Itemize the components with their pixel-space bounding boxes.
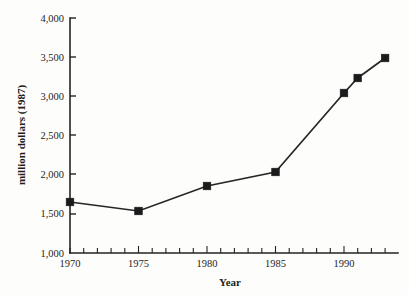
x-tick-label-1985: 1985 <box>265 258 286 269</box>
x-tick-label-1980: 1980 <box>197 258 218 269</box>
y-tick-label-2500: 2,500 <box>40 130 64 141</box>
data-point-markers <box>66 54 389 215</box>
y-axis-ticks <box>70 18 76 214</box>
y-tick-label-3000: 3,000 <box>40 91 64 102</box>
chart-figure: million dollars (1987) 4,000 3,500 3,000… <box>0 0 409 295</box>
data-point-1985 <box>272 168 280 176</box>
x-axis-minor-ticks <box>70 246 385 253</box>
y-tick-label-1500: 1,500 <box>40 208 64 219</box>
x-tick-label-1975: 1975 <box>128 258 149 269</box>
data-point-1991 <box>354 74 362 82</box>
line-chart-canvas: million dollars (1987) 4,000 3,500 3,000… <box>0 0 409 295</box>
y-tick-label-3500: 3,500 <box>40 52 64 63</box>
data-point-1992 <box>381 54 389 62</box>
x-tick-label-1970: 1970 <box>60 258 81 269</box>
y-tick-label-2000: 2,000 <box>40 169 64 180</box>
data-series-line <box>70 58 385 211</box>
data-point-1990 <box>340 89 348 97</box>
y-tick-label-4000: 4,000 <box>40 13 64 24</box>
x-axis-title: Year <box>219 276 241 288</box>
x-tick-label-1990: 1990 <box>334 258 355 269</box>
data-point-1980 <box>203 182 211 190</box>
y-axis-title: million dollars (1987) <box>15 85 28 186</box>
data-point-1975 <box>135 207 143 215</box>
data-point-1970 <box>66 198 74 206</box>
